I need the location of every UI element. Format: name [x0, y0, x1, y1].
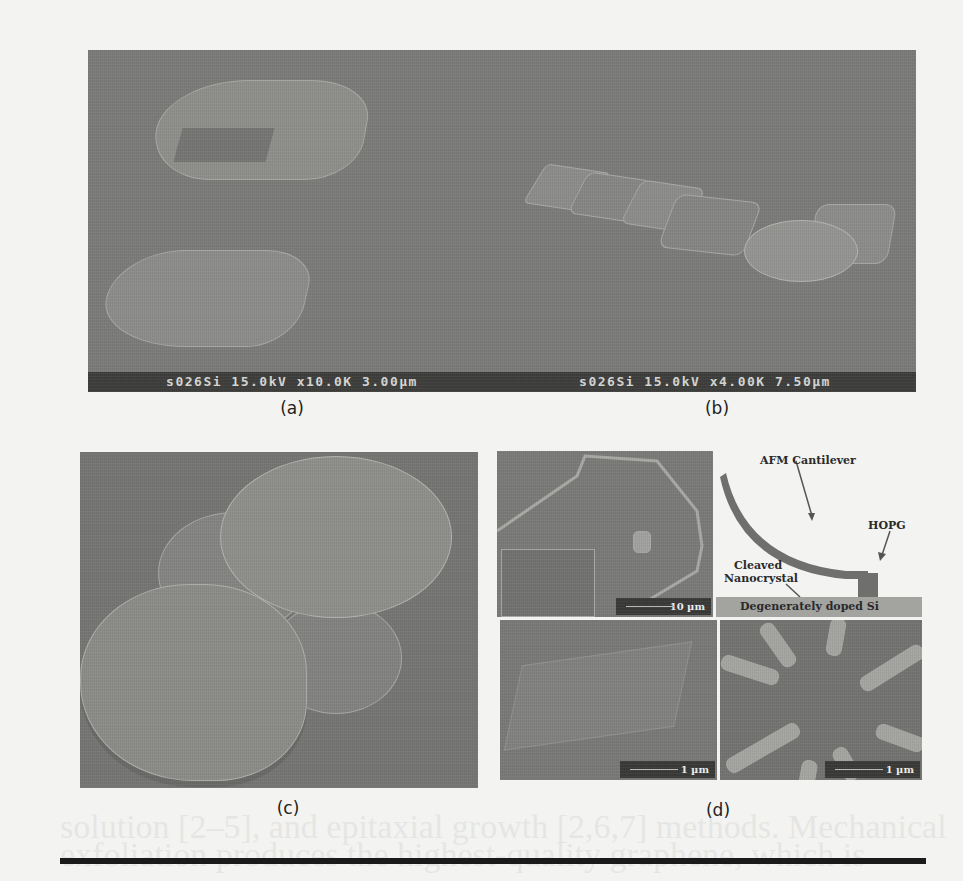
panel-a-caption: (a) — [280, 398, 304, 418]
scale-bar: 1 µm — [825, 761, 920, 778]
crystal-flake — [173, 128, 274, 162]
panel-d-top-right-schematic: AFM Cantilever HOPG Cleaved Nanocrystal … — [716, 451, 922, 617]
panel-d-bottom-right-sem-image: 1 µm — [720, 620, 922, 780]
afm-schematic-drawing — [716, 451, 922, 617]
panel-b-sem-image: s026Si 15.0kV x4.00K 7.50µm — [494, 50, 916, 392]
panel-d-bottom-left-sem-image: 1 µm — [500, 620, 717, 780]
scale-bar-label: 1 µm — [886, 764, 914, 775]
panel-b-caption: (b) — [705, 398, 729, 418]
sem-info-bar: s026Si 15.0kV x10.0K 3.00µm — [88, 372, 496, 392]
scale-bar-line — [835, 769, 883, 770]
crystal-flake — [96, 250, 317, 347]
panel-a-sem-image: s026Si 15.0kV x10.0K 3.00µm — [88, 50, 496, 392]
panel-c-sem-image — [80, 452, 478, 788]
scale-bar-label: 1 µm — [681, 764, 709, 775]
panel-d-caption: (d) — [706, 800, 730, 820]
substrate-band: Degenerately doped Si — [716, 597, 922, 617]
crystal-flake — [220, 456, 452, 618]
degenerately-doped-si-label: Degenerately doped Si — [740, 600, 879, 613]
panel-d-top-left-sem-image: 10 µm — [497, 451, 713, 617]
scale-bar: 1 µm — [620, 761, 715, 778]
graphene-flake — [504, 641, 692, 750]
nanowire — [723, 721, 802, 776]
cleaved-nanocrystal-label-line-1: Cleaved — [734, 559, 782, 572]
scale-bar-line — [630, 769, 678, 770]
nanowire — [720, 653, 781, 687]
crystal-flake — [80, 584, 307, 781]
afm-cantilever-label: AFM Cantilever — [760, 454, 856, 467]
inset-image — [501, 549, 595, 617]
nanowire — [857, 642, 922, 694]
scale-bar-label: 10 µm — [670, 601, 705, 612]
crystal-flake — [744, 220, 858, 282]
sem-info-bar: s026Si 15.0kV x4.00K 7.50µm — [494, 372, 916, 392]
crystal-particle — [633, 531, 651, 553]
panel-c-caption: (c) — [277, 798, 300, 818]
nanowire — [757, 620, 799, 670]
figure-bottom-rule — [60, 858, 926, 864]
scale-bar: 10 µm — [616, 598, 711, 615]
cleaved-nanocrystal-label-line-2: Nanocrystal — [724, 572, 798, 585]
nanowire — [874, 722, 922, 754]
nanowire — [798, 759, 819, 780]
scale-bar-line — [626, 606, 674, 607]
nanowire — [825, 620, 847, 657]
hopg-label: HOPG — [868, 519, 906, 532]
bleed-through-text-line-2: exfoliation produces the highest-quality… — [60, 836, 865, 874]
